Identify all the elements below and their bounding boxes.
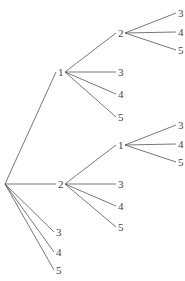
tree-node-label: 4 bbox=[178, 138, 184, 150]
tree-edge bbox=[125, 144, 176, 145]
tree-node-label: 3 bbox=[118, 178, 124, 190]
tree-node-label: 5 bbox=[56, 264, 62, 276]
tree-diagram: 1234523453451345345 bbox=[0, 0, 185, 281]
tree-node-label: 4 bbox=[118, 200, 124, 212]
tree-node-label: 5 bbox=[118, 111, 124, 123]
tree-edge bbox=[65, 33, 116, 72]
tree-edge bbox=[125, 32, 176, 33]
tree-edge bbox=[65, 184, 116, 227]
tree-edge bbox=[65, 72, 116, 94]
tree-edges bbox=[5, 13, 176, 270]
tree-node-label: 4 bbox=[118, 88, 124, 100]
tree-node-label: 1 bbox=[118, 139, 124, 151]
tree-node-label: 4 bbox=[56, 246, 62, 258]
tree-edge bbox=[5, 184, 54, 270]
tree-edge bbox=[125, 33, 176, 50]
tree-edge bbox=[65, 145, 116, 184]
tree-node-label: 4 bbox=[178, 26, 184, 38]
tree-node-label: 2 bbox=[58, 178, 64, 190]
tree-node-label: 5 bbox=[118, 221, 124, 233]
tree-labels: 1234523453451345345 bbox=[56, 7, 184, 276]
tree-node-label: 3 bbox=[178, 7, 184, 19]
tree-edge bbox=[125, 145, 176, 162]
tree-node-label: 5 bbox=[178, 156, 184, 168]
tree-node-label: 3 bbox=[56, 226, 62, 238]
tree-node-label: 1 bbox=[58, 66, 64, 78]
tree-edge bbox=[125, 125, 176, 145]
tree-node-label: 5 bbox=[178, 44, 184, 56]
tree-edge bbox=[5, 184, 54, 252]
tree-node-label: 2 bbox=[118, 27, 124, 39]
tree-edge bbox=[5, 184, 54, 232]
tree-edge bbox=[125, 13, 176, 33]
tree-node-label: 3 bbox=[118, 66, 124, 78]
tree-node-label: 3 bbox=[178, 119, 184, 131]
tree-edge bbox=[65, 72, 116, 117]
tree-edge bbox=[5, 72, 56, 184]
tree-edge bbox=[65, 184, 116, 206]
